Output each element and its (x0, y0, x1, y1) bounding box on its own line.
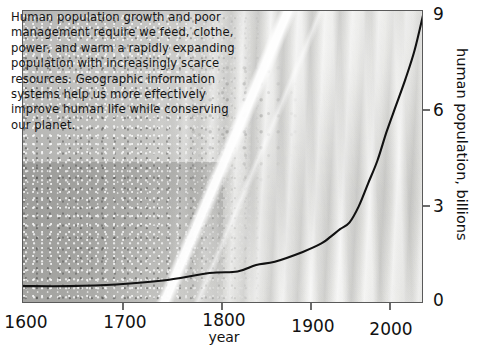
x-axis-ticks (123, 303, 390, 310)
y-tick-label-9: 9 (433, 4, 444, 24)
y-tick-label-6: 6 (433, 100, 444, 120)
x-tick-label-1700: 1700 (103, 312, 146, 332)
figure-caption: Human population growth and poor managem… (11, 10, 263, 133)
x-tick-label-1600: 1600 (4, 312, 47, 332)
population-growth-figure: Human population growth and poor managem… (0, 0, 487, 364)
y-tick-label-3: 3 (433, 196, 444, 216)
y-axis-label: human population, billions (454, 48, 470, 241)
x-tick-label-1900: 1900 (291, 316, 334, 336)
x-tick-label-1800: 1800 (202, 310, 245, 330)
y-axis-ticks (423, 110, 430, 206)
y-tick-label-0: 0 (433, 290, 444, 310)
x-axis-label: year (208, 329, 239, 345)
x-tick-label-2000: 2000 (369, 319, 412, 339)
